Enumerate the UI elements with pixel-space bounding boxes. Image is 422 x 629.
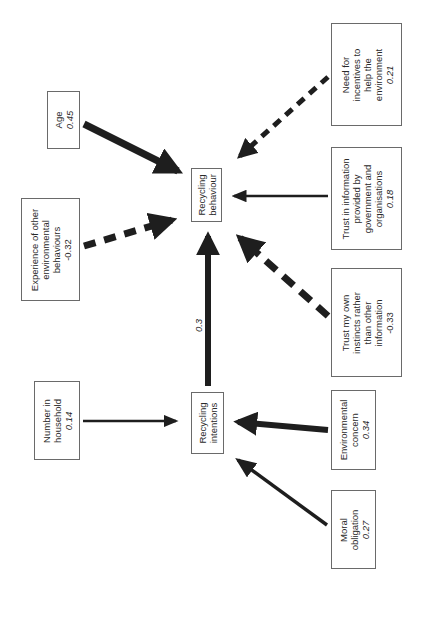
node-label: instincts rather [350,292,361,354]
coefficient: -0.32 [62,208,73,290]
node-recycling-behaviour: Recycling behaviour [191,168,222,222]
coefficient: 0.45 [64,111,75,130]
coefficient: -0.33 [383,292,394,354]
coefficient: 0.21 [383,48,394,101]
node-label: Environmental [337,400,348,461]
coefficient: 0.27 [359,509,370,550]
node-label: organisations [372,158,383,239]
node-label: government and [361,158,372,239]
node-label: Recycling [196,174,207,216]
node-label: Moral [337,509,348,550]
coefficient: 0.14 [63,399,74,443]
node-environmental-concern: Environmental concern 0.34 [331,390,376,470]
node-age: Age 0.45 [47,91,80,149]
node-label: Need for [339,48,350,101]
node-label: environmental [40,208,51,290]
node-label: incentives to [350,48,361,101]
node-label: behaviours [51,208,62,290]
node-incentives: Need for incentives to help the environm… [331,23,402,126]
arrow-age [84,124,178,171]
node-label: information [372,292,383,354]
node-label: household [52,399,63,443]
arrow-moral [238,460,327,525]
node-label: intentions [208,402,219,443]
arrow-experience [84,220,172,246]
node-label: environment [372,48,383,101]
node-label: Trust my own [339,292,350,354]
node-label: provided by [350,158,361,239]
arrow-incentives [240,77,328,156]
node-label: behaviour [207,174,218,216]
node-experience: Experience of other environmental behavi… [21,198,80,301]
node-recycling-intentions: Recycling intentions [191,392,224,454]
node-label: Recycling [197,402,208,443]
node-label: Experience of other [29,208,40,290]
node-trust-instincts: Trust my own instincts rather than other… [331,268,402,377]
node-label: than other [361,292,372,354]
node-label: help the [361,48,372,101]
node-label: Number in [41,399,52,443]
node-household: Number in household 0.14 [34,381,80,460]
node-label: obligation [348,509,359,550]
arrow-trust-instincts [240,238,328,316]
node-moral-obligation: Moral obligation 0.27 [331,490,376,569]
arrow-env-concern [238,422,328,430]
node-label: concern [348,400,359,461]
coefficient: 0.34 [359,400,370,461]
coefficient: 0.18 [383,158,394,239]
path-label-intentions-behaviour: 0.3 [193,319,204,332]
node-label: Age [53,111,64,130]
node-trust-information: Trust in information provided by governm… [331,147,402,250]
node-label: Trust in information [339,158,350,239]
